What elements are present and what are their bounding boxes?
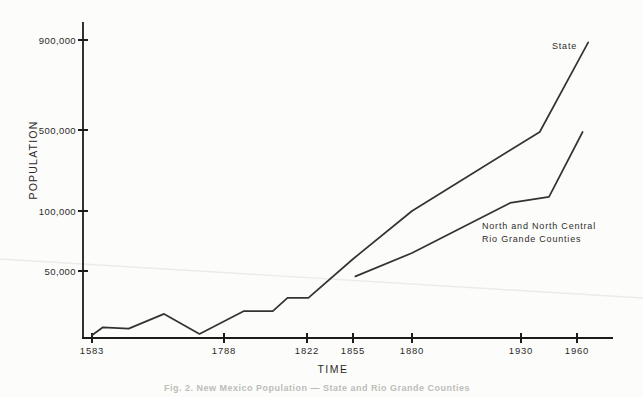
counties-series-label-line2: Rio Grande Counties [482, 233, 596, 246]
x-tick-label: 1960 [555, 345, 599, 356]
counties-series-line [355, 132, 582, 276]
x-tick-label: 1822 [285, 345, 329, 356]
state-series-label: State [552, 41, 577, 51]
x-tick-label: 1880 [390, 345, 434, 356]
y-tick-label: 50,000 [24, 266, 76, 277]
y-tick-label: 100,000 [24, 206, 76, 217]
x-tick-label: 1788 [202, 345, 246, 356]
scan-artifact-line [0, 259, 643, 298]
chart-canvas [0, 0, 643, 397]
x-tick-label: 1930 [499, 345, 543, 356]
y-tick-label: 900,000 [24, 35, 76, 46]
counties-series-label-line1: North and North Central [482, 220, 596, 233]
x-axis-title: TIME [305, 363, 361, 375]
state-series-line [92, 42, 588, 335]
figure-caption-clipped: Fig. 2. New Mexico Population — State an… [164, 383, 470, 393]
population-time-line-chart: POPULATION TIME State North and North Ce… [0, 0, 643, 397]
y-tick-label: 500,000 [24, 125, 76, 136]
x-tick-label: 1583 [70, 345, 114, 356]
counties-series-label: North and North Central Rio Grande Count… [482, 220, 596, 246]
y-axis-title: POPULATION [27, 100, 39, 220]
x-tick-label: 1855 [331, 345, 375, 356]
